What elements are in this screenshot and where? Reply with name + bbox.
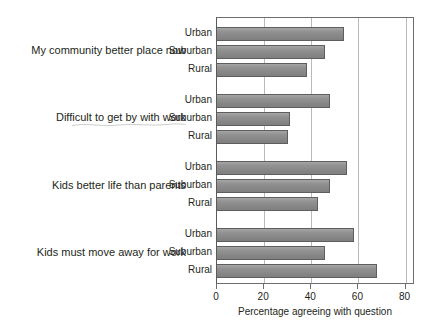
cat-label-0-urban: Urban [92, 27, 212, 38]
cat-label-1-rural: Rural [92, 130, 212, 141]
x-tick-label-40: 40 [290, 291, 330, 303]
bar-0-urban [217, 27, 344, 41]
bar-0-suburban [217, 45, 325, 59]
cat-label-0-suburban: Suburban [92, 45, 212, 56]
bar-3-rural [217, 264, 377, 278]
bar-1-suburban [217, 112, 290, 126]
cat-label-2-urban: Urban [92, 161, 212, 172]
bar-0-rural [217, 63, 307, 77]
bar-2-suburban [217, 179, 330, 193]
cat-label-1-suburban: Suburban [92, 112, 212, 123]
x-tick-60 [357, 284, 358, 289]
cat-label-3-urban: Urban [92, 228, 212, 239]
x-tick-40 [310, 284, 311, 289]
x-tick-label-60: 60 [337, 291, 377, 303]
bar-chart: My community better place now Difficult … [0, 0, 434, 328]
gridline-60 [358, 18, 359, 283]
bar-1-urban [217, 94, 330, 108]
x-tick-label-20: 20 [243, 291, 283, 303]
bar-3-suburban [217, 246, 325, 260]
x-tick-0 [216, 284, 217, 289]
x-tick-80 [405, 284, 406, 289]
plot-area [216, 17, 414, 284]
cat-label-3-rural: Rural [92, 264, 212, 275]
cat-label-2-suburban: Suburban [92, 179, 212, 190]
cat-label-1-urban: Urban [92, 94, 212, 105]
bar-2-urban [217, 161, 347, 175]
bar-2-rural [217, 197, 318, 211]
cat-label-3-suburban: Suburban [92, 246, 212, 257]
gridline-80 [406, 18, 407, 283]
x-tick-20 [263, 284, 264, 289]
cat-label-0-rural: Rural [92, 63, 212, 74]
bar-1-rural [217, 130, 288, 144]
x-tick-label-0: 0 [196, 291, 236, 303]
bar-3-urban [217, 228, 354, 242]
x-tick-label-80: 80 [385, 291, 425, 303]
x-axis-title: Percentage agreeing with question [216, 306, 414, 318]
cat-label-2-rural: Rural [92, 197, 212, 208]
